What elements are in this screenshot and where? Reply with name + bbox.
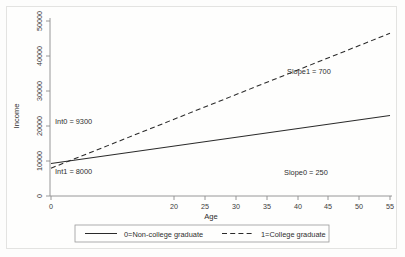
x-tick-label-40: 40 bbox=[294, 202, 302, 211]
x-axis-ticks: 0 20 25 30 35 40 45 50 55 bbox=[49, 196, 394, 211]
annotation-int1: Int1 = 8000 bbox=[55, 167, 92, 176]
y-axis-ticks: 0 10000 20000 30000 40000 50000 bbox=[35, 11, 50, 198]
x-tick-label-30: 30 bbox=[232, 202, 240, 211]
y-tick-label-0: 0 bbox=[35, 194, 44, 198]
figure-container: 0 10000 20000 30000 40000 50000 Income 0… bbox=[0, 0, 405, 257]
y-axis-title: Income bbox=[12, 104, 21, 129]
axes bbox=[50, 18, 392, 196]
y-tick-label-40000: 40000 bbox=[35, 46, 44, 66]
y-tick-label-20000: 20000 bbox=[35, 116, 44, 136]
x-tick-label-0: 0 bbox=[49, 202, 53, 211]
x-tick-label-45: 45 bbox=[324, 202, 332, 211]
chart-legend: 0=Non-college graduate 1=College graduat… bbox=[75, 225, 329, 242]
x-tick-label-50: 50 bbox=[355, 202, 363, 211]
x-tick-label-35: 35 bbox=[263, 202, 271, 211]
legend-label-non-college-graduate: 0=Non-college graduate bbox=[124, 230, 203, 239]
x-tick-label-55: 55 bbox=[386, 202, 394, 211]
legend-label-college-graduate: 1=College graduate bbox=[261, 230, 326, 239]
y-tick-label-30000: 30000 bbox=[35, 81, 44, 101]
series-line-college-graduate bbox=[51, 33, 390, 168]
y-tick-label-10000: 10000 bbox=[35, 151, 44, 171]
annotation-slope1: Slope1 = 700 bbox=[287, 67, 331, 76]
y-tick-label-50000: 50000 bbox=[35, 11, 44, 31]
data-series bbox=[51, 33, 390, 168]
x-tick-label-20: 20 bbox=[170, 202, 178, 211]
annotation-slope0: Slope0 = 250 bbox=[284, 168, 328, 177]
series-line-non-college-graduate bbox=[51, 116, 390, 164]
x-tick-label-25: 25 bbox=[201, 202, 209, 211]
annotations: Int0 = 9300 Int1 = 8000 Slope1 = 700 Slo… bbox=[55, 67, 331, 177]
income-by-age-chart: 0 10000 20000 30000 40000 50000 Income 0… bbox=[0, 0, 405, 257]
annotation-int0: Int0 = 9300 bbox=[55, 117, 92, 126]
x-axis-title: Age bbox=[204, 212, 218, 221]
